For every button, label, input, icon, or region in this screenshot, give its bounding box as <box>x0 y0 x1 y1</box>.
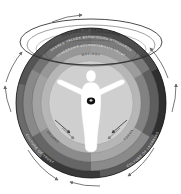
figure-head <box>86 70 96 82</box>
orbit-arrow <box>5 86 11 112</box>
orbit-arrow <box>172 84 176 112</box>
diagram-canvas: CULTURE OF EXCELLENCE SHARED VALUES BEHA… <box>0 0 181 194</box>
orbit-arrow <box>52 15 82 22</box>
orbit-arrow <box>6 52 22 82</box>
orbit-arrow <box>70 182 100 186</box>
culture-of-excellence-diagram: CULTURE OF EXCELLENCE SHARED VALUES BEHA… <box>0 0 181 194</box>
heart-highlight-icon <box>90 99 93 101</box>
